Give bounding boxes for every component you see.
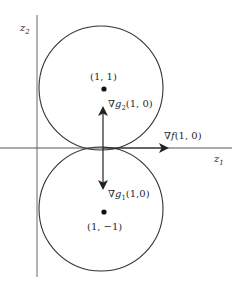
upper-center-label: (1, 1) [90, 71, 117, 82]
grad-f-label: ∇f(1, 0) [164, 130, 202, 141]
upper-circle [39, 26, 163, 150]
lower-center-dot [101, 209, 106, 214]
grad-g2-label: ∇g2(1, 0) [108, 98, 153, 112]
upper-center-dot [101, 86, 106, 91]
z1-axis-label: z1 [213, 153, 224, 167]
lower-center-label: (1, −1) [87, 221, 122, 232]
grad-g1-label: ∇g1(1,0) [108, 188, 150, 202]
z2-axis-label: z2 [19, 22, 30, 36]
diagram-canvas: z2 z1 (1, 1) (1, −1) ∇g2(1, 0) ∇f(1, 0) … [0, 0, 240, 289]
lower-circle [39, 147, 163, 271]
